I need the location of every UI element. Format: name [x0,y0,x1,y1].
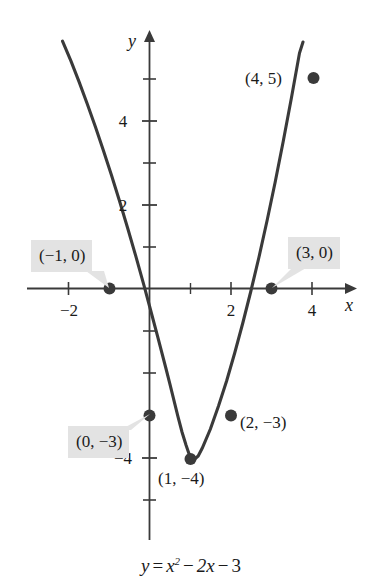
equation-equals: = [149,555,166,576]
callout-tail-3-0 [272,268,306,288]
callout-label-0-neg3: (0, −3) [68,426,129,458]
callout-label-3-0: (3, 0) [288,237,340,269]
point-label-4-5: (4, 5) [245,70,282,87]
y-tick-label-4: 4 [113,113,133,130]
equation-minus-1: − [180,555,197,576]
callout-label-neg1-0: (−1, 0) [31,240,92,272]
point-label-2-neg3: (2, −3) [240,414,286,431]
x-tick-label-2: 2 [221,302,241,319]
x-axis [27,282,357,295]
equation-term3: 3 [231,555,241,576]
point-1-neg4 [185,453,197,465]
point-2-neg3 [225,410,237,422]
point-0-neg3 [144,410,156,422]
equation-caption: y=x2−2x−3 [0,555,382,577]
point-label-1-neg4: (1, −4) [158,470,204,487]
equation-term1-base: x [166,555,174,576]
y-axis-label: y [128,32,136,50]
equation-minus-2: − [215,555,232,576]
graph-canvas [0,0,382,587]
y-tick-label-2: 2 [113,197,133,214]
parabola-graph-figure: x y −2 2 4 4 2 −4 (4, 5) (2, −3) (1, −4)… [0,0,382,587]
equation-term2: 2x [197,555,215,576]
x-tick-label-neg2: −2 [54,302,84,319]
x-axis-label: x [345,296,353,314]
parabola-curve [63,41,304,459]
x-tick-label-4: 4 [302,302,322,319]
point-4-5 [308,72,320,84]
